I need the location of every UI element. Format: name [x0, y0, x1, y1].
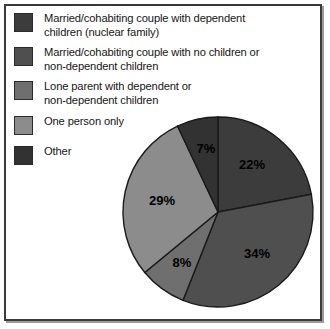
- legend-swatch-other: [14, 146, 33, 165]
- legend-label-lone-parent: Lone parent with dependent or non-depend…: [44, 80, 191, 107]
- legend-swatch-nuclear-family: [14, 13, 33, 32]
- legend-item-couple-no-dependent-children: Married/cohabiting couple with no childr…: [14, 46, 314, 73]
- legend-item-other: Other: [14, 145, 314, 165]
- legend-label-one-person-only: One person only: [44, 115, 124, 129]
- legend-swatch-lone-parent: [14, 81, 33, 100]
- chart-legend: Married/cohabiting couple with dependent…: [14, 12, 314, 172]
- pie-chart-figure: Married/cohabiting couple with dependent…: [0, 0, 330, 329]
- legend-swatch-one-person-only: [14, 116, 33, 135]
- legend-swatch-couple-no-dependent-children: [14, 47, 33, 66]
- legend-label-nuclear-family: Married/cohabiting couple with dependent…: [44, 12, 245, 39]
- legend-item-one-person-only: One person only: [14, 115, 314, 135]
- legend-label-other: Other: [44, 145, 71, 159]
- legend-label-couple-no-dependent-children: Married/cohabiting couple with no childr…: [44, 46, 259, 73]
- legend-item-lone-parent: Lone parent with dependent or non-depend…: [14, 80, 314, 107]
- legend-item-nuclear-family: Married/cohabiting couple with dependent…: [14, 12, 314, 39]
